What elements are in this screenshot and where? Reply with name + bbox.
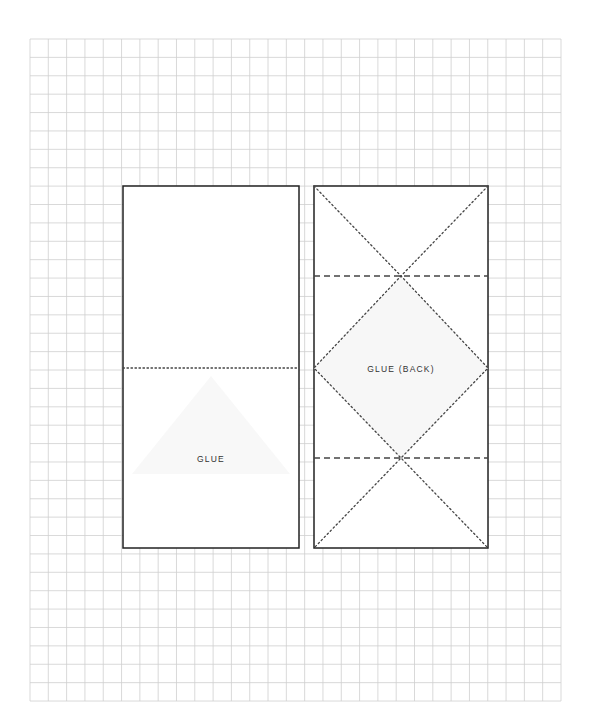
left-panel: GLUE bbox=[123, 186, 299, 548]
right-glue-back-label: GLUE (BACK) bbox=[367, 364, 435, 374]
left-panel-outline bbox=[123, 186, 299, 548]
fold-template-diagram: GLUE GLUE (BACK) bbox=[0, 0, 591, 723]
right-panel: GLUE (BACK) bbox=[314, 186, 488, 548]
left-glue-label: GLUE bbox=[197, 454, 225, 464]
